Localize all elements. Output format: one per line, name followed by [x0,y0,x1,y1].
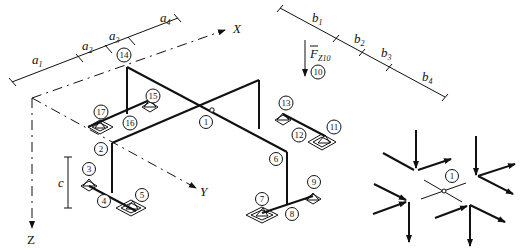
svg-text:5: 5 [140,190,145,200]
z-axis-label: Z [27,232,35,247]
inset-junction-top-right [476,136,515,194]
svg-text:11: 11 [330,122,339,132]
inset-junction-top-left [383,130,451,170]
joint-node-1 [210,108,214,112]
svg-text:13: 13 [282,98,292,108]
svg-text:8: 8 [290,209,295,219]
dimension-line-b: b1 b2 b3 b4 [277,5,448,101]
node-14: 14 [117,48,131,62]
node-5: 5 [136,189,149,202]
node-6: 6 [270,153,283,166]
node-8: 8 [286,208,299,221]
node-10: 10 [311,65,325,79]
dim-b4-label: b4 [422,69,433,86]
support-17-icon [88,120,113,134]
piping-system-diagram: a1 a2 a3 a4 b1 b2 b3 b4 X Z Y c [0,0,520,250]
node-3: 3 [83,163,96,176]
node-17: 17 [94,105,108,119]
node-15: 15 [146,89,160,103]
svg-text:4: 4 [102,196,107,206]
inset-node-1-detail: 1 [373,130,515,246]
support-11-icon [308,134,336,150]
y-axis-label: Y [200,184,209,199]
node-1: 1 [200,116,213,129]
svg-text:12: 12 [295,130,304,140]
svg-text:3: 3 [87,164,92,174]
node-9: 9 [308,176,321,189]
svg-text:7: 7 [260,194,265,204]
inset-junction-bottom-right [435,205,505,246]
x-axis [32,30,225,98]
x-axis-label: X [232,21,242,36]
dim-b2-label: b2 [354,31,365,48]
svg-text:15: 15 [149,91,159,101]
node-11: 11 [327,120,341,134]
node-4: 4 [98,195,111,208]
diagram-canvas: a1 a2 a3 a4 b1 b2 b3 b4 X Z Y c [0,0,520,250]
support-13-icon [275,113,291,125]
node-2: 2 [95,143,108,156]
dim-b1-label: b1 [312,10,323,27]
svg-text:9: 9 [312,177,317,187]
svg-text:10: 10 [314,67,324,77]
dim-a4-label: a4 [160,10,171,27]
svg-text:1: 1 [204,117,209,127]
svg-text:6: 6 [274,154,279,164]
dim-c-label: c [58,175,64,190]
svg-text:2: 2 [99,144,104,154]
svg-text:16: 16 [126,118,136,128]
inset-node-label: 1 [450,171,455,181]
node-7: 7 [256,193,269,206]
dimension-line-c: c [58,157,72,208]
dim-a3-label: a3 [109,28,120,45]
svg-text:17: 17 [97,107,107,117]
node-12: 12 [292,128,306,142]
dim-a2-label: a2 [82,38,93,55]
node-labels: 1 2 3 4 5 6 7 8 9 10 11 12 13 14 15 16 1… [83,48,342,221]
inset-center-joint: 1 [421,170,466,203]
dim-a1-label: a1 [32,52,43,69]
node-16: 16 [123,116,137,130]
node-13: 13 [279,96,293,110]
inset-junction-bottom-left [373,184,409,242]
force-label: FZ10 [309,46,330,63]
dimension-line-a: a1 a2 a3 a4 [9,10,181,86]
svg-text:14: 14 [120,50,130,60]
dim-b3-label: b3 [381,45,392,62]
